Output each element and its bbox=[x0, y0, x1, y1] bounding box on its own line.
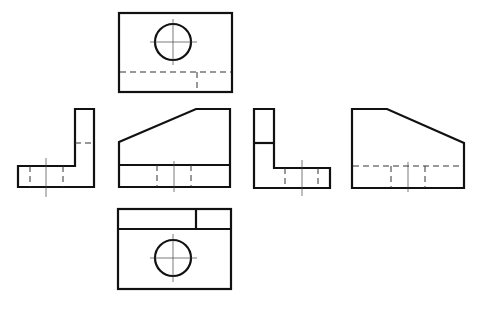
rear-view bbox=[352, 109, 464, 192]
front-view bbox=[119, 109, 230, 192]
bottom-view bbox=[118, 209, 231, 289]
left-side-view bbox=[18, 109, 94, 197]
top-view bbox=[119, 13, 232, 92]
orthographic-drawing bbox=[0, 0, 478, 309]
right-side-view bbox=[254, 109, 330, 196]
